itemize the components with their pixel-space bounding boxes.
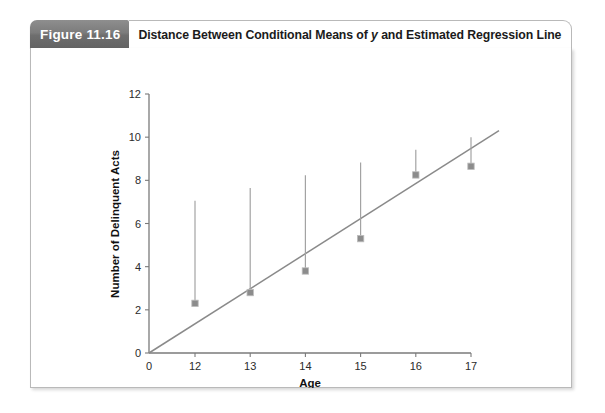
figure-card: Figure 11.16 Distance Between Conditiona…: [30, 20, 572, 388]
x-tick-label-14: 14: [299, 360, 311, 372]
figure-title: Distance Between Conditional Means of y …: [138, 28, 561, 42]
y-tick-label-4: 4: [135, 261, 141, 273]
x-axis-title: Age: [299, 377, 321, 388]
x-tick-label-13: 13: [244, 360, 256, 372]
figure-body: 024681012 0121314151617 Age Number of De…: [30, 48, 572, 388]
figure-title-tab: Distance Between Conditional Means of y …: [129, 20, 572, 48]
data-point-age-16: [413, 172, 419, 178]
data-point-age-17: [468, 163, 474, 169]
y-tick-label-12: 12: [129, 88, 141, 100]
x-tick-label-17: 17: [465, 360, 477, 372]
y-tick-label-8: 8: [135, 174, 141, 186]
x-axis-ticks: 0121314151617: [146, 353, 477, 372]
plot-svg: 024681012 0121314151617 Age Number of De…: [31, 48, 573, 388]
residual-drop-lines: [195, 137, 471, 303]
estimated-regression-line: [149, 131, 499, 353]
y-axis-ticks: 024681012: [129, 88, 149, 359]
conditional-mean-markers: [192, 163, 474, 306]
x-tick-label-12: 12: [189, 360, 201, 372]
y-tick-label-0: 0: [135, 347, 141, 359]
data-point-age-15: [357, 235, 363, 241]
x-tick-label-16: 16: [410, 360, 422, 372]
x-tick-label-15: 15: [354, 360, 366, 372]
data-point-age-13: [247, 289, 253, 295]
y-tick-label-6: 6: [135, 218, 141, 230]
figure-number-label: Figure 11.16: [40, 27, 120, 42]
axes-group: [149, 94, 471, 353]
x-tick-label-0: 0: [146, 360, 152, 372]
figure-title-part1: Distance Between Conditional Means of: [138, 28, 371, 42]
figure-header: Figure 11.16 Distance Between Conditiona…: [30, 20, 572, 48]
figure-number-tab: Figure 11.16: [30, 20, 129, 48]
figure-title-variable-y: y: [371, 28, 378, 42]
y-tick-label-2: 2: [135, 304, 141, 316]
y-tick-label-10: 10: [129, 131, 141, 143]
data-point-age-14: [302, 268, 308, 274]
scatter-plot: 024681012 0121314151617 Age Number of De…: [31, 48, 573, 388]
figure-title-part2: and Estimated Regression Line: [378, 28, 562, 42]
data-point-age-12: [192, 300, 198, 306]
y-axis-title: Number of Delinquent Acts: [109, 150, 121, 298]
